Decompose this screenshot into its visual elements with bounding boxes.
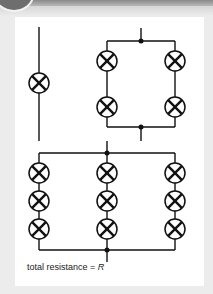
lamp-icon: [97, 163, 117, 183]
lamp-icon: [165, 51, 185, 71]
junction-dot: [139, 125, 144, 130]
circuit-diagram: [0, 0, 213, 294]
lamp-icon: [97, 51, 117, 71]
junction-dot: [105, 151, 110, 156]
lamp-icon: [29, 73, 49, 93]
caption-text: total resistance =: [27, 262, 98, 272]
lamp-icon: [165, 163, 185, 183]
lamp-icon: [29, 163, 49, 183]
lamp-icon: [97, 97, 117, 117]
lamp-icon: [29, 191, 49, 211]
lamp-icon: [165, 191, 185, 211]
junction-dot: [139, 39, 144, 44]
lamp-icon: [165, 219, 185, 239]
lamp-icon: [97, 191, 117, 211]
caption: total resistance = R: [27, 262, 104, 272]
lamp-icon: [165, 97, 185, 117]
lamp-icon: [29, 219, 49, 239]
junction-dot: [105, 248, 110, 253]
lamp-icon: [97, 219, 117, 239]
resistance-symbol: R: [98, 262, 105, 272]
